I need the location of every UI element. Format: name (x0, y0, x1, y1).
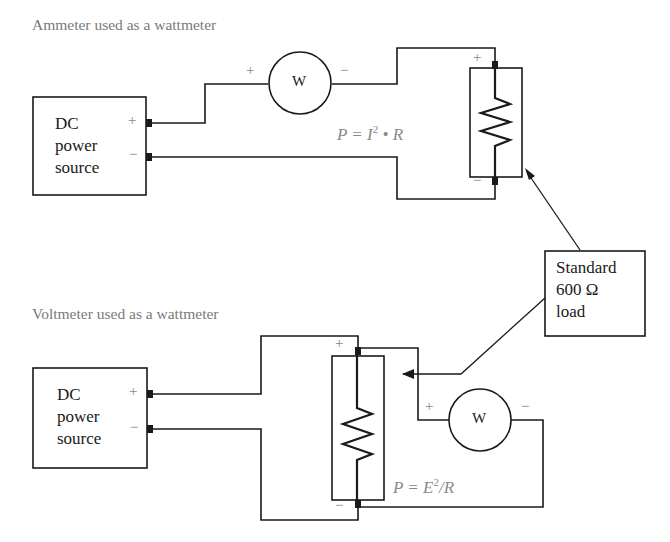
top-source-label: DC power source (55, 113, 99, 179)
top-meter-label: W (292, 73, 306, 90)
top-meter-plus-sign: + (246, 62, 254, 79)
callout-line1: Standard (556, 257, 616, 279)
top-source-minus-terminal (146, 153, 152, 161)
bottom-load-minus-sign: − (335, 497, 343, 514)
bottom-circuit-title: Voltmeter used as a wattmeter (32, 305, 219, 323)
bottom-source-minus-sign: − (130, 419, 138, 436)
top-source-line1: DC (55, 113, 99, 135)
bottom-meter-label: W (472, 410, 486, 427)
bottom-formula: P = E2/R (393, 476, 454, 498)
top-source-line2: power (55, 135, 99, 157)
bottom-formula-base: P = E (393, 478, 433, 497)
arrowhead-top-icon (525, 168, 535, 180)
bottom-meter-minus-sign: − (521, 398, 529, 415)
bottom-source-line1: DC (57, 384, 101, 406)
callout-label: Standard 600 Ω load (556, 257, 616, 323)
bottom-load-plus-terminal (355, 347, 361, 355)
top-wire-positive (150, 84, 268, 123)
arrowhead-bottom-icon (402, 369, 414, 379)
top-source-minus-sign: − (129, 146, 137, 163)
top-source-plus-terminal (146, 119, 152, 127)
bottom-source-minus-terminal (147, 425, 153, 433)
bottom-wire-positive (152, 336, 358, 394)
top-meter-minus-sign: − (340, 62, 348, 79)
top-formula-base: P = I (337, 125, 373, 144)
top-wire-negative (150, 157, 495, 199)
top-circuit-title: Ammeter used as a wattmeter (32, 16, 216, 34)
callout-arrow-top (527, 172, 580, 250)
top-load-plus-terminal (492, 61, 498, 69)
top-load-minus-terminal (492, 177, 498, 185)
bottom-source-label: DC power source (57, 384, 101, 450)
bottom-load-plus-sign: + (335, 335, 343, 352)
bottom-load-minus-terminal (355, 500, 361, 508)
top-resistor-zigzag (481, 63, 510, 182)
bottom-source-plus-terminal (147, 390, 153, 398)
bottom-meter-plus-sign: + (425, 398, 433, 415)
bottom-source-plus-sign: + (129, 383, 137, 400)
bottom-wire-negative (152, 429, 358, 520)
bottom-source-line2: power (57, 406, 101, 428)
top-load-minus-sign: − (473, 172, 481, 189)
top-formula: P = I2 • R (337, 123, 403, 145)
top-source-line3: source (55, 157, 99, 179)
bottom-resistor-zigzag (343, 350, 372, 505)
top-formula-suffix: • R (378, 125, 403, 144)
bottom-source-line3: source (57, 428, 101, 450)
bottom-formula-suffix: /R (439, 478, 454, 497)
top-load-plus-sign: + (473, 49, 481, 66)
callout-line3: load (556, 301, 616, 323)
bottom-wire-load-to-meter (358, 348, 449, 420)
callout-arrow-bottom (403, 298, 545, 374)
callout-line2: 600 Ω (556, 279, 616, 301)
top-source-plus-sign: + (128, 112, 136, 129)
